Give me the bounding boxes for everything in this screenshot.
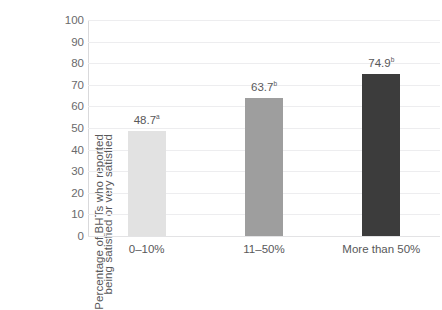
y-tick-label: 100 bbox=[50, 14, 84, 26]
y-tick-label: 40 bbox=[50, 144, 84, 156]
y-axis-tick-labels: 1009080706050403020100 bbox=[50, 0, 84, 266]
y-tick-label: 10 bbox=[50, 208, 84, 220]
y-tick-label: 60 bbox=[50, 100, 84, 112]
x-category-label: More than 50% bbox=[321, 243, 441, 255]
bar bbox=[362, 74, 400, 236]
x-category-label: 0–10% bbox=[87, 243, 207, 255]
y-tick-label: 30 bbox=[50, 165, 84, 177]
y-tick-label: 20 bbox=[50, 187, 84, 199]
y-tick-label: 90 bbox=[50, 36, 84, 48]
y-tick-label: 0 bbox=[50, 230, 84, 242]
gridline bbox=[88, 20, 440, 21]
x-axis-category-labels: 0–10%11–50%More than 50% bbox=[88, 243, 440, 263]
gridline bbox=[88, 42, 440, 43]
y-axis-title: Percentage of BHTs who reported being sa… bbox=[0, 0, 50, 266]
bar-value-label: 63.7b bbox=[224, 81, 304, 93]
x-category-label: 11–50% bbox=[204, 243, 324, 255]
bar-value-label: 74.9b bbox=[341, 57, 421, 69]
plot-area: 48.7a63.7b74.9b bbox=[88, 20, 440, 236]
bar bbox=[245, 98, 283, 236]
y-tick-label: 70 bbox=[50, 79, 84, 91]
bar-value-label: 48.7a bbox=[107, 114, 187, 126]
y-tick-label: 50 bbox=[50, 122, 84, 134]
gridline bbox=[88, 236, 440, 237]
y-tick-label: 80 bbox=[50, 57, 84, 69]
bar bbox=[128, 131, 166, 236]
